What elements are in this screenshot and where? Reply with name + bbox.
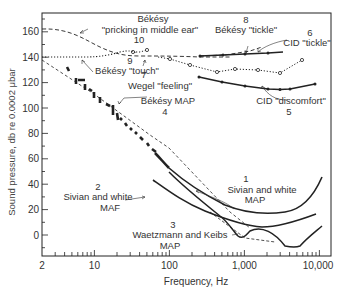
y-tick-80: 80 [28, 128, 40, 139]
annotation-10-line2: "pricking in middle ear" [102, 24, 199, 35]
x-axis [55, 250, 319, 256]
annotation-5-number: 5 [286, 106, 291, 117]
y-axis-label: Sound pressure, db re 0.0002 μbar [6, 68, 17, 216]
plot-frame [42, 13, 331, 256]
annotation-2-line2: MAF [100, 202, 120, 213]
x-tick-100: 100 [161, 260, 178, 271]
x-tick-2: 2 [39, 260, 45, 271]
marker [300, 58, 303, 61]
annotation-4-number: 4 [162, 106, 167, 117]
marker [188, 63, 191, 66]
annotation-10-line1: Békésy [137, 13, 168, 24]
annotation-3-line2: MAP [160, 240, 181, 251]
annotation-10-number: 10 [134, 34, 145, 45]
x-tick-labels: 2 10 100 1,000 10,000 [39, 260, 334, 271]
chart: 160 140 120 100 80 60 40 20 0 Sound pres… [0, 0, 349, 292]
curve-5-markers [198, 76, 317, 92]
annotation-1-number: 1 [243, 173, 248, 184]
annotation-5-line1: CID "discomfort" [256, 95, 326, 106]
y-axis [42, 19, 48, 248]
y-tick-labels: 160 140 120 100 80 60 40 20 0 [22, 26, 39, 241]
y-tick-60: 60 [28, 153, 40, 164]
annotation-7-line1: Wegel "feeling" [128, 80, 192, 91]
annotation-7-number: 7 [141, 69, 146, 80]
chart-svg: 160 140 120 100 80 60 40 20 0 Sound pres… [0, 0, 349, 292]
annotation-8-line1: Békésy "tickle" [215, 24, 277, 35]
y-tick-120: 120 [22, 77, 39, 88]
y-tick-20: 20 [28, 204, 40, 215]
marker [168, 57, 171, 60]
marker [215, 70, 218, 73]
curve-5-cid-discomfort [199, 77, 315, 90]
x-tick-1000: 1,000 [232, 260, 257, 271]
annotation-1-line2: MAP [245, 194, 266, 205]
x-tick-10: 10 [89, 260, 101, 271]
curve-4-bekesy-map-tail [155, 153, 169, 168]
curve-7-feeling [158, 57, 302, 73]
x-axis-label: Frequency, Hz [164, 276, 228, 287]
annotation-3-line1: Waetzmann and Keibs [132, 229, 227, 240]
annotation-6-line1: CID "tickle" [283, 37, 330, 48]
y-tick-160: 160 [22, 26, 39, 37]
marker [256, 68, 259, 71]
annotation-4-line1: Békésy MAP [141, 95, 195, 106]
annotation-9-line1: Békésy "touch" [95, 65, 159, 76]
y-tick-140: 140 [22, 52, 39, 63]
y-tick-100: 100 [22, 103, 39, 114]
y-tick-40: 40 [28, 179, 40, 190]
x-tick-10000: 10,000 [303, 260, 334, 271]
marker [145, 48, 148, 51]
marker [278, 71, 281, 74]
annotation-2-line1: Sivian and white [63, 191, 132, 202]
marker [233, 67, 236, 70]
y-tick-0: 0 [33, 230, 39, 241]
curve-9-touch [42, 51, 137, 57]
